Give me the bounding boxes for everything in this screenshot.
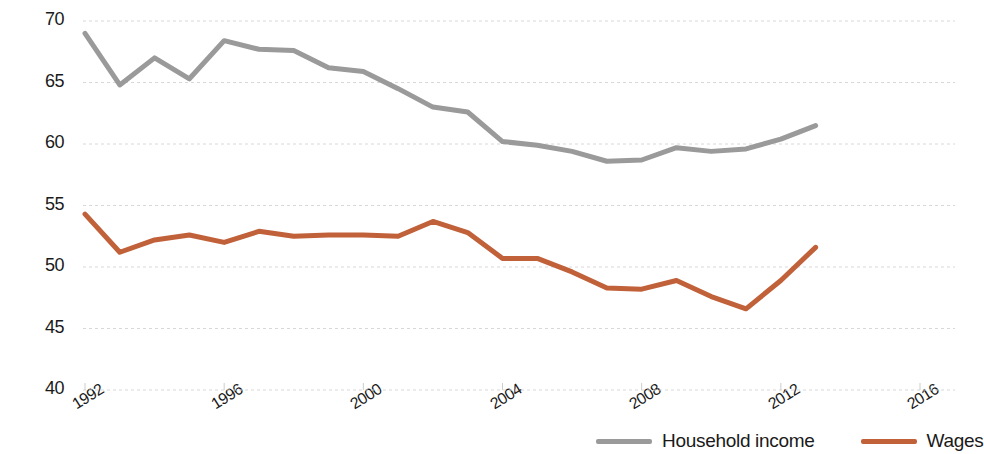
legend-label-wages: Wages bbox=[927, 430, 984, 452]
chart-legend: Household income Wages bbox=[596, 430, 984, 452]
legend-item-wages[interactable]: Wages bbox=[861, 430, 984, 452]
legend-item-household-income[interactable]: Household income bbox=[596, 430, 815, 452]
legend-swatch-household-income bbox=[596, 439, 652, 444]
x-axis-ticks bbox=[85, 383, 920, 390]
legend-label-household-income: Household income bbox=[662, 430, 815, 452]
series-line-household-income bbox=[85, 33, 816, 161]
legend-swatch-wages bbox=[861, 439, 917, 444]
series-line-wages bbox=[85, 214, 816, 309]
gridlines bbox=[83, 21, 955, 390]
